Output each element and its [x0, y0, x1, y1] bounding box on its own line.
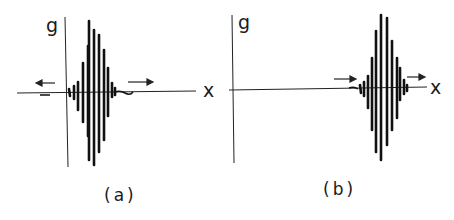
panel-a: g x (a) [0, 0, 227, 220]
arrow-right-b1 [334, 76, 356, 82]
x-axis-label-a: x [203, 79, 214, 101]
x-axis-a [17, 91, 196, 93]
wave-packet-a [69, 21, 115, 165]
caption-a: (a) [104, 185, 137, 205]
panel-b: g x (b) [227, 0, 454, 220]
arrow-right-b2 [407, 74, 425, 80]
x-axis-label-b: x [430, 76, 441, 98]
arrow-right-a [128, 79, 153, 85]
y-axis-label-b: g [238, 11, 250, 33]
arrow-left-a [36, 80, 55, 86]
caption-b: (b) [323, 179, 356, 199]
y-axis-label-a: g [46, 14, 58, 36]
y-axis-b [232, 15, 234, 163]
